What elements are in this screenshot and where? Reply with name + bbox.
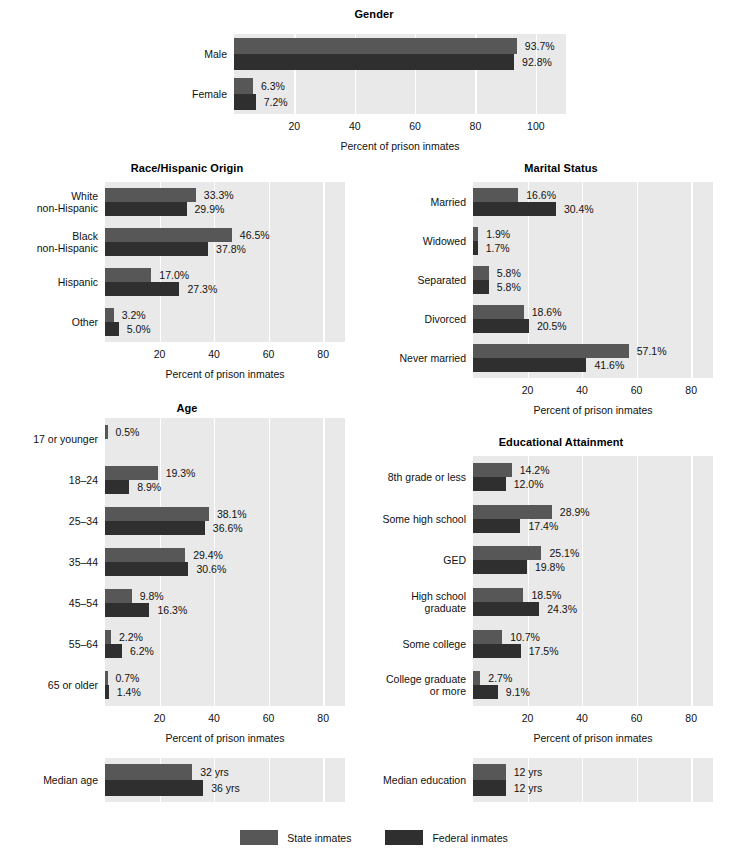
chart-title-race: Race/Hispanic Origin <box>0 162 374 174</box>
chart-panel-race: Race/Hispanic Origin White non-Hispanic3… <box>0 162 374 387</box>
axis-tick-label: 80 <box>317 712 329 724</box>
bar-federal <box>105 202 187 216</box>
axis-tick-label: 40 <box>208 712 220 724</box>
bar-federal <box>473 519 520 533</box>
axis-tick-label: 40 <box>576 384 588 396</box>
bar-value-label: 32 yrs <box>200 764 229 780</box>
chart-panel-gender: Gender Male93.7%92.8%Female6.3%7.2%20406… <box>0 8 748 153</box>
bar-value-label: 41.6% <box>594 358 624 372</box>
bar-federal <box>473 560 527 574</box>
category-label: Never married <box>374 352 466 364</box>
bar-federal <box>105 644 122 658</box>
legend-item-federal: Federal inmates <box>385 830 507 845</box>
category-label: Some high school <box>374 513 466 525</box>
category-label: Median age <box>0 774 98 786</box>
bar-value-label: 3.2% <box>122 308 146 322</box>
bar-value-label: 5.8% <box>497 266 521 280</box>
bar-federal <box>105 521 205 535</box>
axis-tick-label: 20 <box>154 712 166 724</box>
bar-value-label: 9.8% <box>140 589 164 603</box>
bar-value-label: 7.2% <box>264 94 288 110</box>
gridline <box>691 456 692 706</box>
axis-tick-label: 60 <box>631 384 643 396</box>
chart-panel-median-age: Median age32 yrs36 yrs <box>0 756 374 806</box>
axis-tick-label: 60 <box>263 712 275 724</box>
bar-state <box>105 764 192 780</box>
category-label: White non-Hispanic <box>0 190 98 214</box>
chart-panel-education: Educational Attainment 8th grade or less… <box>374 436 748 722</box>
bar-value-label: 57.1% <box>637 344 667 358</box>
bar-federal <box>105 242 208 256</box>
axis-tick-label: 40 <box>349 120 361 132</box>
bar-value-label: 30.6% <box>196 562 226 576</box>
gridline <box>637 758 638 802</box>
axis-tick-label: 20 <box>522 384 534 396</box>
bar-value-label: 92.8% <box>522 54 552 70</box>
bar-value-label: 10.7% <box>510 630 540 644</box>
bar-value-label: 1.9% <box>486 227 510 241</box>
legend-label-state: State inmates <box>287 832 351 844</box>
bar-value-label: 24.3% <box>547 602 577 616</box>
bar-value-label: 0.5% <box>116 425 140 439</box>
category-label: 25–34 <box>0 515 98 527</box>
bar-value-label: 36.6% <box>213 521 243 535</box>
bar-value-label: 46.5% <box>240 228 270 242</box>
bar-federal <box>105 282 179 296</box>
bar-state <box>473 344 629 358</box>
category-label: Other <box>0 316 98 328</box>
bar-value-label: 17.5% <box>529 644 559 658</box>
category-label: Some college <box>374 638 466 650</box>
gridline <box>269 418 270 706</box>
x-axis-title: Percent of prison inmates <box>473 404 713 416</box>
category-label: GED <box>374 554 466 566</box>
bar-state <box>105 589 132 603</box>
category-label: High school graduate <box>374 590 466 614</box>
bar-value-label: 16.6% <box>526 188 556 202</box>
bar-federal <box>234 54 514 70</box>
bar-value-label: 1.4% <box>117 685 141 699</box>
category-label: Married <box>374 196 466 208</box>
category-label: Hispanic <box>0 276 98 288</box>
bar-federal <box>473 780 506 796</box>
gridline <box>323 758 324 802</box>
legend-item-state: State inmates <box>240 830 351 845</box>
category-label: Male <box>0 48 227 60</box>
bar-state <box>105 188 196 202</box>
category-label: 55–64 <box>0 638 98 650</box>
chart-title-education: Educational Attainment <box>374 436 748 448</box>
category-label: College graduate or more <box>374 673 466 697</box>
x-axis-title: Percent of prison inmates <box>105 368 345 380</box>
chart-title-gender: Gender <box>0 8 748 20</box>
bar-value-label: 38.1% <box>217 507 247 521</box>
bar-value-label: 8.9% <box>137 480 161 494</box>
bar-federal <box>473 644 521 658</box>
bar-value-label: 12.0% <box>514 477 544 491</box>
bar-federal <box>105 685 109 699</box>
bar-value-label: 18.5% <box>531 588 561 602</box>
gridline <box>269 182 270 342</box>
bar-federal <box>473 358 586 372</box>
bar-value-label: 18.6% <box>532 305 562 319</box>
axis-tick-label: 100 <box>527 120 545 132</box>
chart-title-marital: Marital Status <box>374 162 748 174</box>
gridline <box>528 456 529 706</box>
category-label: Widowed <box>374 235 466 247</box>
bar-value-label: 20.5% <box>537 319 567 333</box>
bar-value-label: 16.3% <box>157 603 187 617</box>
bar-value-label: 2.7% <box>488 671 512 685</box>
bar-value-label: 12 yrs <box>514 764 543 780</box>
bar-value-label: 28.9% <box>560 505 590 519</box>
category-label: 45–54 <box>0 597 98 609</box>
chart-title-age: Age <box>0 402 374 414</box>
bar-value-label: 14.2% <box>520 463 550 477</box>
x-axis-title: Percent of prison inmates <box>473 732 713 744</box>
bar-federal <box>473 202 556 216</box>
bar-state <box>105 630 111 644</box>
bar-federal <box>473 685 498 699</box>
bar-state <box>473 505 552 519</box>
category-label: Separated <box>374 274 466 286</box>
bar-value-label: 30.4% <box>564 202 594 216</box>
gridline <box>637 456 638 706</box>
bar-federal <box>105 603 149 617</box>
gridline <box>323 182 324 342</box>
